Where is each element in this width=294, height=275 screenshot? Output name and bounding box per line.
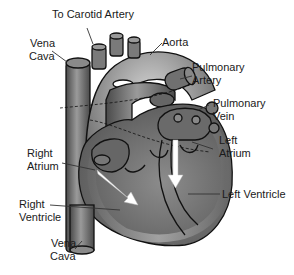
label-aorta: Aorta	[162, 36, 189, 48]
label-right-ventricle-2: Ventricle	[19, 211, 61, 223]
heart-diagram: To Carotid Artery Vena Cava Aorta Pulmon…	[0, 0, 294, 275]
label-left-atrium-1: Left	[219, 134, 237, 146]
label-vena-cava-top-2: Cava	[29, 50, 56, 62]
label-left-ventricle: Left Ventricle	[222, 188, 286, 200]
label-carotid-artery: To Carotid Artery	[52, 8, 134, 20]
label-vena-cava-bottom-1: Vena	[51, 237, 77, 249]
label-pulmonary-vein-1: Pulmonary	[213, 97, 266, 109]
label-vena-cava-top-1: Vena	[30, 37, 56, 49]
label-pulmonary-artery-2: Artery	[192, 74, 222, 86]
label-right-atrium-1: Right	[27, 147, 53, 159]
label-left-atrium-2: Atrium	[219, 147, 251, 159]
heart-svg: To Carotid Artery Vena Cava Aorta Pulmon…	[0, 0, 294, 275]
leader-carotid	[87, 28, 93, 44]
label-vena-cava-bottom-2: Cava	[50, 250, 77, 262]
label-pulmonary-vein-2: Vein	[213, 110, 234, 122]
label-pulmonary-artery-1: Pulmonary	[192, 61, 245, 73]
label-right-atrium-2: Atrium	[27, 160, 59, 172]
label-right-ventricle-1: Right	[19, 198, 45, 210]
